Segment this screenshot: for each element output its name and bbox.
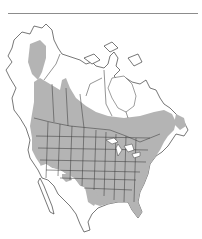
header-rule [8,13,198,14]
range-map [0,18,202,233]
